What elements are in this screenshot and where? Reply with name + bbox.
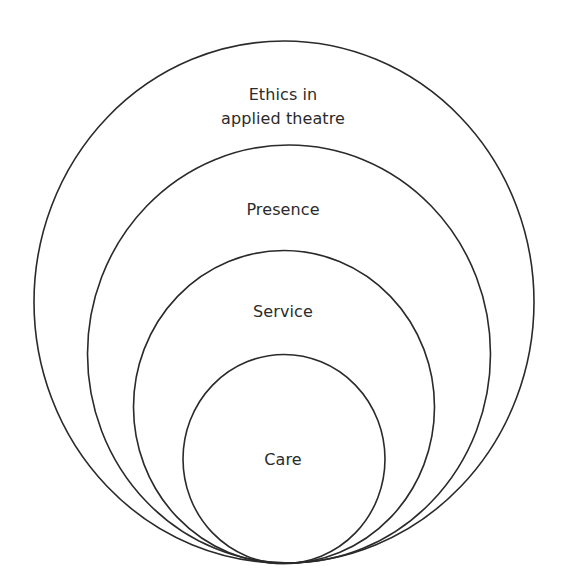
label-care: Care	[0, 448, 566, 472]
nested-circles-diagram: Ethics in applied theatre Presence Servi…	[0, 0, 566, 583]
label-presence-text: Presence	[0, 198, 566, 222]
label-care-text: Care	[0, 448, 566, 472]
label-presence: Presence	[0, 198, 566, 222]
label-ethics-line-1: Ethics in	[0, 83, 566, 107]
label-service-text: Service	[0, 300, 566, 324]
label-ethics: Ethics in applied theatre	[0, 83, 566, 131]
ring-service	[134, 251, 435, 564]
label-service: Service	[0, 300, 566, 324]
label-ethics-line-2: applied theatre	[0, 107, 566, 131]
